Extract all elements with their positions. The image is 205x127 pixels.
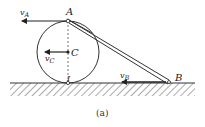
figure-caption: (a): [96, 108, 108, 118]
pin-a: [66, 19, 70, 23]
ground: [10, 83, 195, 96]
point-c: [66, 50, 69, 53]
rod-ab: [67, 19, 169, 84]
label-c: C: [71, 47, 79, 58]
pin-b: [168, 81, 171, 84]
label-a: A: [65, 6, 73, 17]
label-i: I: [66, 74, 71, 83]
label-vc: vC: [45, 54, 55, 65]
mechanics-diagram: A C I B vA vC vB (a): [0, 0, 205, 127]
label-va: vA: [20, 8, 30, 19]
label-b: B: [174, 72, 182, 83]
label-vb: vB: [120, 71, 130, 82]
